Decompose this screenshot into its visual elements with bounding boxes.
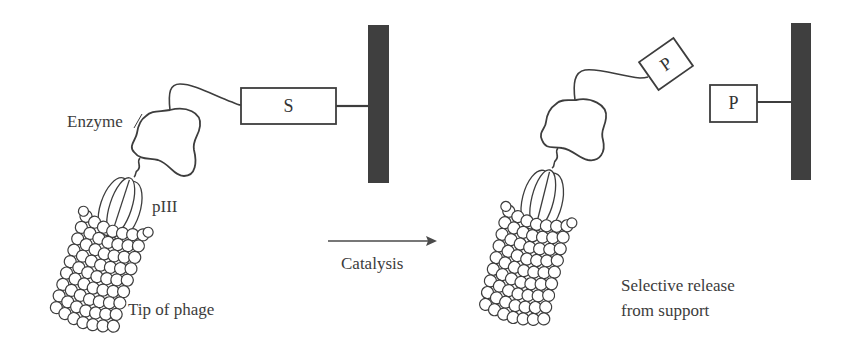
enzyme-product-tether (574, 70, 648, 100)
phage-tip-label: Tip of phage (128, 301, 214, 318)
product-support-label: P (710, 94, 757, 112)
piii-linker-right (552, 148, 558, 168)
catalysis-label: Catalysis (341, 255, 403, 272)
phage-tip-right (474, 161, 588, 333)
enzyme-shape-left (132, 109, 200, 176)
selective-release-line1: Selective release (621, 273, 735, 298)
piii-label: pIII (152, 198, 177, 215)
enzyme-label: Enzyme (67, 113, 123, 130)
solid-support-left (368, 25, 389, 183)
diagram-canvas: Enzyme pIII Tip of phage S Catalysis P P… (0, 0, 853, 352)
enzyme-substrate-tether (169, 84, 241, 110)
piii-linker-left (134, 158, 140, 177)
selective-release-label: Selective release from support (621, 273, 735, 323)
solid-support-right (791, 23, 811, 180)
catalysis-arrow (328, 236, 437, 246)
left-panel (44, 25, 389, 340)
selective-release-line2: from support (621, 298, 735, 323)
substrate-label: S (241, 97, 336, 115)
enzyme-shape-right (541, 99, 606, 160)
